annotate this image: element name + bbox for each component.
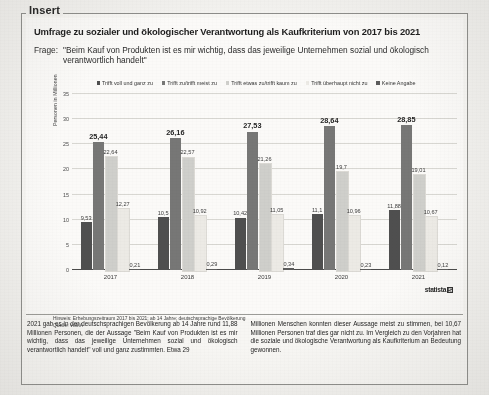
bar-value-label: 0,34 <box>283 261 294 267</box>
bar-value-label: 0,12 <box>437 262 448 268</box>
x-tick-label: 2018 <box>149 274 226 280</box>
bar-fill <box>117 208 130 272</box>
bar[interactable]: 10,42 <box>235 218 246 270</box>
statista-logo: statistaS <box>425 286 453 293</box>
bar-fill <box>271 214 284 272</box>
bar[interactable]: 11,05 <box>271 214 282 270</box>
chart-title: Umfrage zu sozialer und ökologischer Ver… <box>34 26 458 38</box>
bar[interactable]: 10,96 <box>348 215 359 270</box>
bar-fill <box>81 222 92 270</box>
bar[interactable]: 0,12 <box>437 269 448 270</box>
bar-value-label: 28,85 <box>397 115 415 124</box>
bar-fill <box>360 269 371 270</box>
chart-legend: Trifft voll und ganz zuTrifft zu/trifft … <box>54 80 458 86</box>
bar[interactable]: 19,7 <box>336 171 347 270</box>
bar-groups: 9,5325,4422,6412,270,2110,526,1622,5710,… <box>72 94 457 270</box>
bar-group-2018: 10,526,1622,5710,920,29 <box>149 94 226 270</box>
bar-fill <box>348 215 361 272</box>
bar[interactable]: 22,57 <box>182 157 193 270</box>
bar-fill <box>259 163 272 272</box>
bar[interactable]: 0,21 <box>129 269 140 270</box>
bar-value-label: 21,26 <box>258 156 272 162</box>
legend-swatch-icon <box>226 81 229 84</box>
bar[interactable]: 9,53 <box>81 222 92 270</box>
legend-label: Trifft voll und ganz zu <box>102 80 153 86</box>
bar[interactable]: 28,64 <box>324 126 335 270</box>
bar[interactable]: 11,1 <box>312 214 323 270</box>
bar-fill <box>247 132 258 270</box>
bar-value-label: 26,16 <box>166 128 184 137</box>
legend-item-1[interactable]: Trifft zu/trifft meist zu <box>162 80 217 86</box>
bar-value-label: 0,21 <box>129 262 140 268</box>
bar-fill <box>437 269 448 270</box>
bar[interactable]: 12,27 <box>117 208 128 270</box>
x-tick-label: 2019 <box>226 274 303 280</box>
bar-value-label: 28,64 <box>320 116 338 125</box>
bar-fill <box>170 138 181 270</box>
bar[interactable]: 10,67 <box>425 216 436 270</box>
bar-fill <box>105 156 118 272</box>
bar[interactable]: 27,53 <box>247 132 258 270</box>
bar-value-label: 22,64 <box>104 149 118 155</box>
bar-value-label: 19,7 <box>336 164 347 170</box>
y-tick-label: 20 <box>63 166 69 172</box>
x-tick-label: 2017 <box>72 274 149 280</box>
question-label: Frage: <box>34 45 58 66</box>
legend-item-3[interactable]: Trifft überhaupt nicht zu <box>306 80 368 86</box>
legend-label: Trifft etwas zu/trifft kaum zu <box>231 80 297 86</box>
bar-value-label: 0,29 <box>206 261 217 267</box>
bar-value-label: 9,53 <box>81 215 92 221</box>
y-tick-label: 10 <box>63 217 69 223</box>
bar-value-label: 12,27 <box>116 201 130 207</box>
bar[interactable]: 21,26 <box>259 163 270 270</box>
bar-fill <box>194 215 207 272</box>
bar-fill <box>93 142 104 270</box>
bar[interactable]: 26,16 <box>170 138 181 270</box>
article-column-right: Millionen Menschen konnten dieser Aussag… <box>251 320 462 354</box>
article-column-left: 2021 gab es in der deutschsprachigen Bev… <box>27 320 238 354</box>
bar-fill <box>312 214 323 270</box>
legend-item-0[interactable]: Trifft voll und ganz zu <box>97 80 153 86</box>
legend-label: Trifft überhaupt nicht zu <box>311 80 367 86</box>
bar[interactable]: 25,44 <box>93 142 104 270</box>
bar[interactable]: 0,29 <box>206 269 217 270</box>
bar-group-2017: 9,5325,4422,6412,270,21 <box>72 94 149 270</box>
bar-value-label: 10,67 <box>424 209 438 215</box>
bar-fill <box>336 171 349 272</box>
bar-value-label: 11,88 <box>387 203 401 209</box>
y-tick-label: 5 <box>66 242 69 248</box>
legend-item-4[interactable]: Keine Angabe <box>376 80 415 86</box>
bar-fill <box>158 217 169 270</box>
chart-card: Umfrage zu sozialer und ökologischer Ver… <box>26 18 463 318</box>
bar-value-label: 25,44 <box>89 132 107 141</box>
bar-fill <box>324 126 335 270</box>
bar-fill <box>283 268 294 270</box>
bar[interactable]: 10,5 <box>158 217 169 270</box>
y-tick-label: 15 <box>63 192 69 198</box>
article-body: 2021 gab es in der deutschsprachigen Bev… <box>27 320 461 354</box>
question-row: Frage: "Beim Kauf von Produkten ist es m… <box>34 45 458 66</box>
bar[interactable]: 11,88 <box>389 210 400 270</box>
y-tick-label: 0 <box>66 267 69 273</box>
bar-value-label: 11,05 <box>270 207 284 213</box>
bar-fill <box>206 269 217 270</box>
bar-fill <box>182 157 195 272</box>
legend-label: Trifft zu/trifft meist zu <box>167 80 217 86</box>
bar[interactable]: 19,01 <box>413 174 424 270</box>
legend-item-2[interactable]: Trifft etwas zu/trifft kaum zu <box>226 80 297 86</box>
y-tick-label: 35 <box>63 91 69 97</box>
plot-area: 35302520151050 9,5325,4422,6412,270,2110… <box>72 94 457 270</box>
x-axis-labels: 20172018201920202021 <box>72 274 457 280</box>
bar[interactable]: 22,64 <box>105 156 116 270</box>
bar-fill <box>425 216 438 272</box>
bar-value-label: 11,1 <box>312 207 322 213</box>
bar[interactable]: 10,92 <box>194 215 205 270</box>
bar-group-2019: 10,4227,5321,2611,050,34 <box>226 94 303 270</box>
bar[interactable]: 0,34 <box>283 268 294 270</box>
bar-value-label: 10,42 <box>233 210 247 216</box>
bar-group-2021: 11,8828,8519,0110,670,12 <box>380 94 457 270</box>
bar-fill <box>401 125 412 270</box>
bar[interactable]: 28,85 <box>401 125 412 270</box>
bar-value-label: 10,5 <box>158 210 169 216</box>
bar[interactable]: 0,23 <box>360 269 371 270</box>
